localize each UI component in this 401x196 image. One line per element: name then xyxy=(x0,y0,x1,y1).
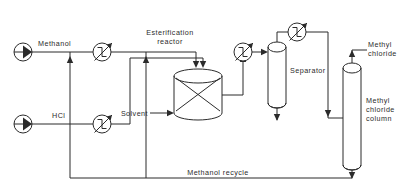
methanol-pump xyxy=(14,43,32,61)
hcl-heater xyxy=(93,115,112,133)
solvent-feed-line xyxy=(150,110,174,116)
esterification-reactor-label-line1: Esterification xyxy=(146,28,193,37)
esterification-reactor xyxy=(174,69,222,120)
methyl-chloride-column-label-line3: column xyxy=(366,114,392,123)
separator-label: Separator xyxy=(290,66,326,75)
hcl-pump xyxy=(14,115,32,133)
separator-vessel xyxy=(268,42,286,108)
process-flow-diagram: Methanol HCl Esterification reactor Solv… xyxy=(0,0,401,196)
cooler-to-separator-line xyxy=(252,49,268,55)
hcl-feed-label: HCl xyxy=(52,111,65,120)
reactor-effluent-cooler xyxy=(234,43,253,61)
condenser-to-column-line xyxy=(306,32,343,118)
methyl-chloride-column xyxy=(343,63,361,170)
esterification-reactor-label-line2: reactor xyxy=(157,37,183,46)
methanol-recycle-label: Methanol recycle xyxy=(187,168,249,177)
methyl-chloride-column-label-line1: Methyl xyxy=(366,96,390,105)
separator-overhead-line xyxy=(277,32,288,42)
overhead-condenser xyxy=(288,23,307,41)
solvent-label: Solvent xyxy=(121,109,148,118)
methyl-chloride-label-line2: chloride xyxy=(368,49,397,58)
methanol-heater xyxy=(93,43,112,61)
separator-bottoms-line xyxy=(274,108,280,121)
methyl-chloride-label-line1: Methyl xyxy=(368,40,392,49)
methanol-to-reactor-line xyxy=(111,52,199,68)
methyl-chloride-column-label-line2: chloride xyxy=(366,105,395,114)
methanol-feed-riser xyxy=(67,52,73,178)
methanol-feed-label: Methanol xyxy=(38,39,71,48)
flowsheet-canvas: Methanol HCl Esterification reactor Solv… xyxy=(0,0,401,196)
methyl-chloride-product-line xyxy=(349,50,367,63)
